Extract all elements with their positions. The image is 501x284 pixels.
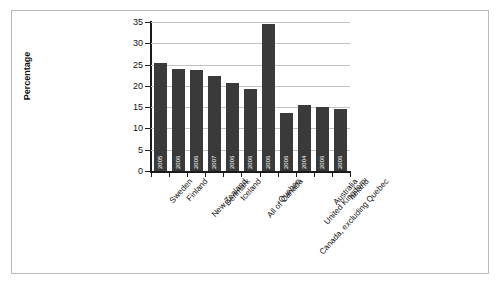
y-axis-tick-label: 25 [117,61,143,70]
category-label: Finland [185,177,210,203]
x-axis-tick [151,172,152,177]
bar[interactable]: 2006 [316,107,329,171]
category-label: Australia [331,177,359,207]
category-label: Sweden [168,177,194,205]
y-axis-tick-label: 10 [117,124,143,133]
x-axis-tick [187,172,188,177]
y-axis-title: Percentage [22,36,32,116]
bar-year-label: 2006 [226,143,239,169]
x-axis-tick [278,172,279,177]
gridline [151,65,350,66]
x-axis-tick [223,172,224,177]
bar-year-label: 2004 [298,143,311,169]
bar-year-label: 2006 [280,143,293,169]
bar[interactable]: 2006 [226,83,239,171]
chart-frame: 05101520253035 Percentage 20052006200620… [11,10,489,274]
gridline [151,171,350,172]
bar[interactable]: 2006 [172,69,185,171]
bar-year-label: 2005 [154,143,167,169]
x-axis-tick [350,172,351,177]
x-axis-tick [260,172,261,177]
x-axis-tick [241,172,242,177]
bar[interactable]: 2005 [154,63,167,171]
y-axis-labels: 05101520253035 [113,11,143,191]
category-label: Quebec [276,177,302,204]
bar-year-label: 2006 [172,143,185,169]
x-axis-tick [205,172,206,177]
x-axis-tick [332,172,333,177]
y-axis-tick-label: 35 [117,18,143,27]
bar-year-label: 2007 [208,143,221,169]
y-axis-tick-label: 30 [117,39,143,48]
y-axis-tick [145,43,151,44]
y-axis-tick [145,22,151,23]
bar-year-label: 2006 [190,143,203,169]
y-axis-tick-label: 0 [117,167,143,176]
bar-year-label: 2006 [334,143,347,169]
category-label: United Kingdom [322,177,368,226]
y-axis-tick [145,65,151,66]
bar-year-label: 2006 [262,143,275,169]
y-axis-tick [145,128,151,129]
bar-year-label: 2006 [244,143,257,169]
y-axis-tick-label: 20 [117,82,143,91]
bar[interactable]: 2006 [334,109,347,171]
bar[interactable]: 2006 [190,70,203,171]
bar[interactable]: 2006 [244,89,257,171]
category-label: New Zealand [210,177,249,219]
category-label: All of Canada [265,177,305,220]
category-label: Canada, excluding Quebec [317,177,390,256]
y-axis-tick [145,107,151,108]
gridline [151,43,350,44]
bar[interactable]: 2007 [208,76,221,171]
gridline [151,22,350,23]
bar[interactable]: 2006 [280,113,293,171]
y-axis-tick-label: 5 [117,146,143,155]
y-axis-tick [145,150,151,151]
x-axis-tick [314,172,315,177]
x-axis-tick [169,172,170,177]
bar[interactable]: 2006 [262,24,275,171]
category-label: Denmark [223,177,252,208]
category-label: Iceland [239,177,263,203]
y-axis-tick [145,86,151,87]
category-label: Ireland [347,177,370,202]
bar[interactable]: 2004 [298,105,311,171]
y-axis-tick-label: 15 [117,103,143,112]
plot-area: 2005200620062007200620062006200620042006… [151,22,350,171]
x-axis-tick [296,172,297,177]
bar-year-label: 2006 [316,143,329,169]
bar-chart: 05101520253035 Percentage 20052006200620… [12,11,490,275]
